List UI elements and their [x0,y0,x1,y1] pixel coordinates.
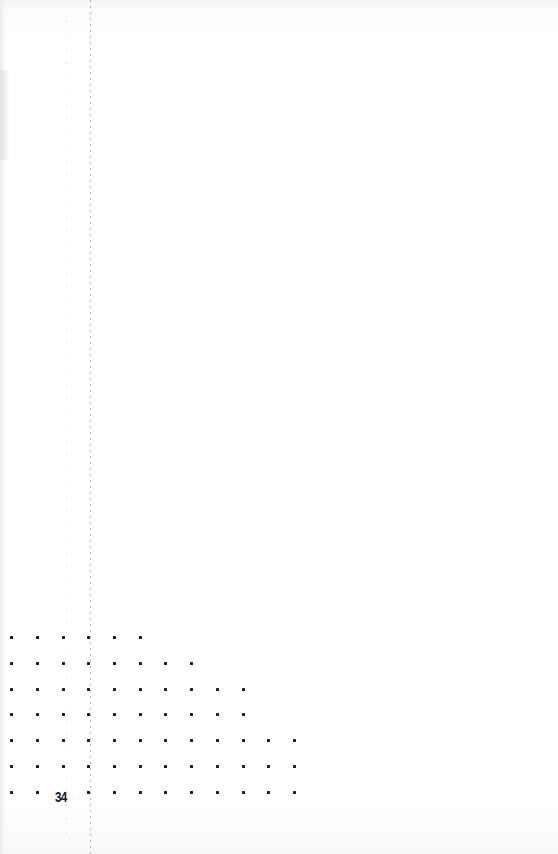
grid-dot [267,791,270,794]
grid-dot [10,739,13,742]
grid-dot [10,636,13,639]
page-number: 34 [55,789,66,804]
grid-dot [293,791,296,794]
grid-dot [242,791,245,794]
grid-dot [36,765,39,768]
grid-dot [36,739,39,742]
grid-dot [113,662,116,665]
grid-dot [190,662,193,665]
grid-dot [293,765,296,768]
grid-dot [36,688,39,691]
grid-dot [267,765,270,768]
grid-dot [216,688,219,691]
grid-dot [216,765,219,768]
grid-dot [113,636,116,639]
grid-dot [139,739,142,742]
grid-dot [62,636,65,639]
grid-dot [10,662,13,665]
grid-dot [216,713,219,716]
grid-dot [87,688,90,691]
grid-dot [190,739,193,742]
grid-dot [62,739,65,742]
grid-dot [113,713,116,716]
grid-dot [139,662,142,665]
grid-dot [164,765,167,768]
grid-dot [36,713,39,716]
grid-dot [62,662,65,665]
grid-dot [87,791,90,794]
grid-dot [10,713,13,716]
grid-dot [164,662,167,665]
grid-dot [10,791,13,794]
grid-dot [139,791,142,794]
grid-dot [87,765,90,768]
grid-dot [293,739,296,742]
grid-dot [87,713,90,716]
grid-dot [113,791,116,794]
grid-dot [190,688,193,691]
grid-dot [164,791,167,794]
grid-dot [36,791,39,794]
grid-dot [164,739,167,742]
grid-dot [139,765,142,768]
grid-dot [62,688,65,691]
grid-dot [164,688,167,691]
grid-dot [242,765,245,768]
grid-dot [190,713,193,716]
grid-dot [113,765,116,768]
grid-dot [62,713,65,716]
grid-dot [139,688,142,691]
document-page: 34 [0,0,558,854]
grid-dot [190,791,193,794]
grid-dot [242,713,245,716]
grid-dot [87,662,90,665]
grid-dot [139,713,142,716]
grid-dot [36,636,39,639]
grid-dot [139,636,142,639]
grid-dot [62,765,65,768]
grid-dot [242,688,245,691]
grid-dot [36,662,39,665]
grid-dot [164,713,167,716]
grid-dot [10,765,13,768]
grid-dot [216,791,219,794]
grid-dot [216,739,219,742]
grid-dot [190,765,193,768]
grid-dot [10,688,13,691]
grid-dot [242,739,245,742]
grid-dot [87,739,90,742]
grid-dot [113,739,116,742]
grid-dot [267,739,270,742]
grid-dot [87,636,90,639]
grid-dot [113,688,116,691]
dot-grid [0,0,558,854]
